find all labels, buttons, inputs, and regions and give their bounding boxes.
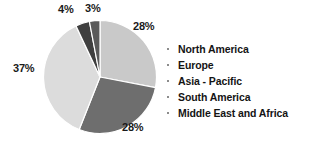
legend-bullet-icon: [167, 96, 169, 98]
legend-item: Middle East and Africa: [166, 105, 308, 121]
legend-item-label: Middle East and Africa: [178, 105, 288, 121]
pie-svg: [43, 20, 157, 134]
legend-bullet-icon: [167, 64, 169, 66]
slice-label-europe: 28%: [122, 121, 143, 133]
legend-bullet-icon: [167, 112, 169, 114]
legend-item: North America: [166, 41, 308, 57]
legend-bullet-icon: [167, 48, 169, 50]
legend-item: Asia - Pacific: [166, 73, 308, 89]
slice-label-middle-east-and-africa: 3%: [85, 2, 101, 14]
legend-item: Europe: [166, 57, 308, 73]
legend-bullet-icon: [167, 80, 169, 82]
legend-item-label: North America: [178, 41, 249, 57]
legend-item-label: Europe: [178, 57, 214, 73]
slice-label-south-america: 4%: [58, 3, 74, 15]
chart-legend: North AmericaEuropeAsia - PacificSouth A…: [166, 41, 308, 121]
legend-item-label: Asia - Pacific: [178, 73, 242, 89]
legend-item-label: South America: [178, 89, 250, 105]
pie-chart-figure: 28% 28% 37% 4% 3% North AmericaEuropeAsi…: [0, 0, 310, 145]
slice-label-north-america: 28%: [133, 20, 154, 32]
legend-item: South America: [166, 89, 308, 105]
slice-label-asia-pacific: 37%: [13, 62, 34, 74]
pie-slices: [44, 21, 157, 134]
pie-chart-graphic: [43, 20, 157, 134]
